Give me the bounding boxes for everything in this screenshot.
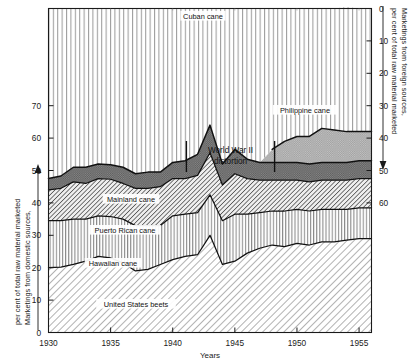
svg-text:1945: 1945 [226,338,245,348]
svg-text:60: 60 [32,133,42,143]
area-bands [49,7,372,333]
svg-text:1950: 1950 [288,338,307,348]
ww2-line1: World War II [208,146,253,155]
svg-text:per cent of total raw material: per cent of total raw material marketed [390,8,399,134]
band-label-cuban-cane: Cuban cane [183,12,223,21]
x-axis-label: Years [200,351,220,360]
band-label-mainland-cane: Mainland cane [107,195,155,204]
right-axis-title: Marketings from foreign sources,per cent… [380,6,408,170]
svg-text:1930: 1930 [39,338,58,348]
svg-text:Marketings from foreign source: Marketings from foreign sources, [400,8,408,116]
svg-text:1940: 1940 [163,338,182,348]
band-label-united-states-beets: United States beets [104,300,169,309]
band-label-philippine-cane: Philippine cane [280,106,330,115]
svg-text:30: 30 [379,101,389,111]
svg-text:0: 0 [36,328,41,338]
svg-text:per cent of total raw material: per cent of total raw material marketed [13,199,22,325]
band-label-hawaiian-cane: Hawaiian cane [89,259,137,268]
stacked-area-chart: 0102030405060700102030405060193019351940… [0,0,408,360]
svg-text:70: 70 [32,101,42,111]
svg-text:10: 10 [379,36,389,46]
ww2-line2: distortion [214,157,248,166]
svg-text:40: 40 [379,133,389,143]
svg-text:30: 30 [32,230,42,240]
svg-text:20: 20 [32,263,42,273]
chart-container: 0102030405060700102030405060193019351940… [0,0,408,360]
svg-text:20: 20 [379,68,389,78]
band-label-puerto-rican-cane: Puerto Rican cane [95,226,156,235]
svg-text:40: 40 [32,198,42,208]
svg-text:10: 10 [32,295,42,305]
svg-text:1955: 1955 [350,338,369,348]
svg-text:60: 60 [379,198,389,208]
svg-text:Marketings from domestic sourc: Marketings from domestic sources, [23,210,32,325]
svg-text:1935: 1935 [101,338,120,348]
